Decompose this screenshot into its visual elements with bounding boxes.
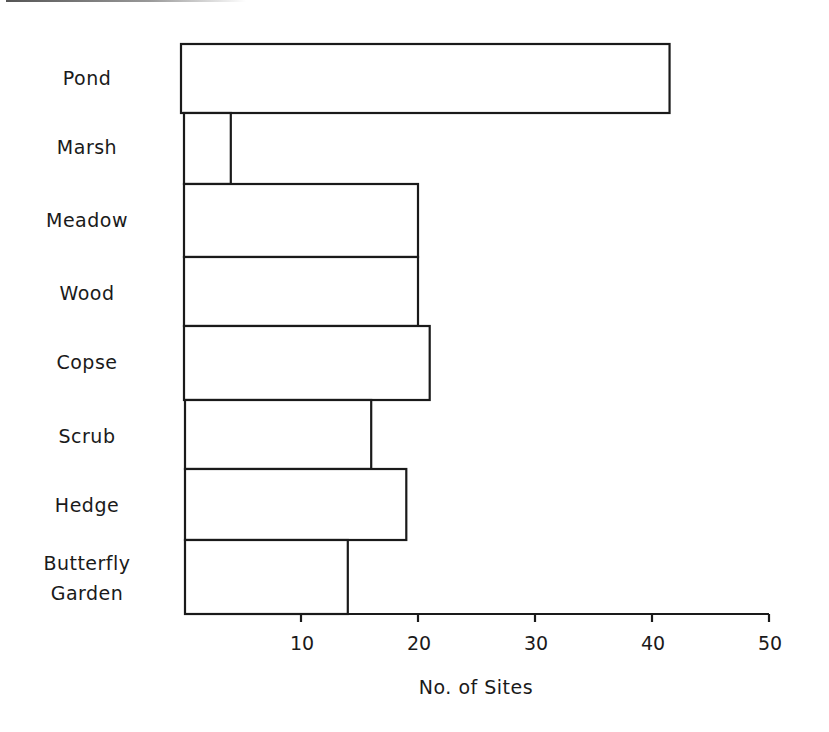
bar-butterfly-garden xyxy=(185,540,348,614)
bar-hedge xyxy=(185,469,406,540)
bars-group xyxy=(181,44,670,614)
bar-wood xyxy=(184,257,418,326)
category-label-scrub: Scrub xyxy=(12,424,162,448)
x-tick-label-40: 40 xyxy=(623,632,683,654)
x-tick-label-20: 20 xyxy=(389,632,449,654)
bar-pond xyxy=(181,44,670,113)
category-label-pond: Pond xyxy=(12,66,162,90)
category-label-wood: Wood xyxy=(12,281,162,305)
category-label-copse: Copse xyxy=(12,350,162,374)
category-label-garden: Garden xyxy=(12,581,162,605)
bar-copse xyxy=(184,326,430,400)
bar-scrub xyxy=(185,400,371,469)
x-axis xyxy=(184,614,769,622)
x-axis-title: No. of Sites xyxy=(376,676,576,698)
category-label-marsh: Marsh xyxy=(12,135,162,159)
category-label-butterfly: Butterfly xyxy=(12,551,162,575)
category-label-hedge: Hedge xyxy=(12,493,162,517)
x-tick-label-50: 50 xyxy=(740,632,800,654)
x-tick-label-10: 10 xyxy=(272,632,332,654)
x-tick-label-30: 30 xyxy=(506,632,566,654)
bar-meadow xyxy=(184,184,418,257)
category-label-meadow: Meadow xyxy=(12,208,162,232)
bar-marsh xyxy=(184,113,231,184)
